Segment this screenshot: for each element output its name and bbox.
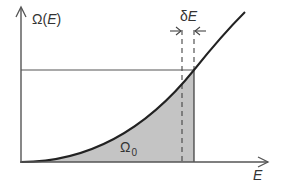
y-axis-label: Ω(E) — [32, 11, 61, 27]
delta-e-arrow-left-icon — [170, 27, 181, 35]
delta-e-label: δE — [180, 8, 198, 24]
delta-e-arrow-right-icon — [195, 27, 206, 35]
x-axis-label: E — [253, 167, 263, 183]
omega0-shaded-area — [21, 70, 194, 162]
omega-e-diagram: Ω(E) δE Ω0 E — [0, 0, 286, 186]
